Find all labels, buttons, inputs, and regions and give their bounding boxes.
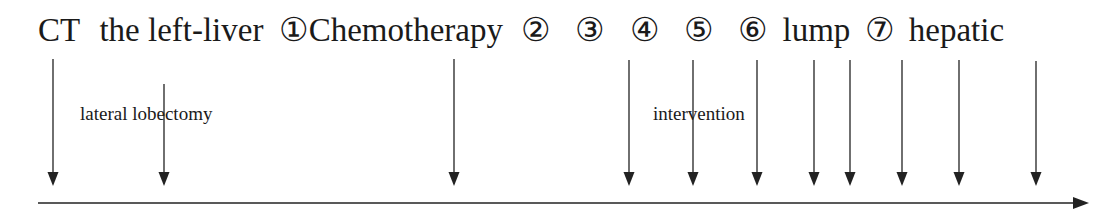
timeline-diagram	[0, 0, 1117, 215]
axis-arrowhead-icon	[1073, 197, 1089, 209]
down-arrow-icon	[752, 172, 763, 186]
down-arrow-icon	[48, 172, 59, 186]
down-arrow-icon	[897, 172, 908, 186]
down-arrow-icon	[449, 172, 460, 186]
down-arrow-icon	[845, 172, 856, 186]
down-arrow-icon	[954, 172, 965, 186]
down-arrow-icon	[688, 172, 699, 186]
down-arrow-icon	[624, 172, 635, 186]
down-arrow-icon	[809, 172, 820, 186]
down-arrow-icon	[1031, 172, 1042, 186]
down-arrow-icon	[159, 172, 170, 186]
